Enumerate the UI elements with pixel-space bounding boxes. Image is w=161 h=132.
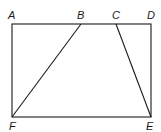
rectangle-adef [12, 24, 151, 117]
segment-ce [116, 24, 151, 117]
label-b: B [77, 9, 84, 21]
label-f: F [9, 120, 17, 132]
label-a: A [7, 9, 15, 21]
segment-bf [12, 24, 81, 117]
label-e: E [146, 120, 154, 132]
label-d: D [147, 9, 155, 21]
label-c: C [112, 9, 120, 21]
geometry-diagram: A B C D E F [0, 0, 161, 132]
